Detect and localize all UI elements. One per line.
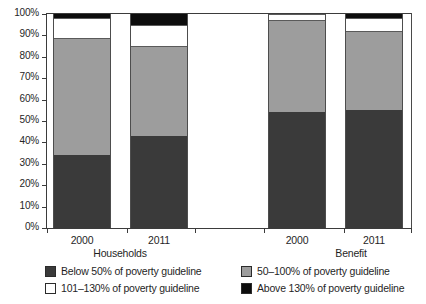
legend-swatch-gray-icon: [241, 266, 252, 277]
y-axis-tick-label: 70%: [20, 71, 39, 82]
y-axis-tick-label: 20%: [20, 178, 39, 189]
stacked-bar-households-2011[interactable]: [130, 14, 188, 228]
y-axis-tick-label: 30%: [20, 157, 39, 168]
legend-item-101-130[interactable]: 101–130% of poverty guideline: [45, 282, 241, 294]
x-axis-group-label-households: Households: [65, 247, 175, 259]
y-axis-tick-label: 40%: [20, 135, 39, 146]
legend-swatch-white-icon: [45, 283, 56, 294]
x-axis-label-benefit-2000: 2000: [267, 234, 327, 246]
legend-row: 101–130% of poverty guideline Above 130%…: [45, 282, 405, 299]
legend-label: 50–100% of poverty guideline: [257, 265, 390, 277]
segment-50-100: [346, 31, 402, 110]
segment-below-50: [346, 110, 402, 228]
x-axis-group-label-benefit: Benefit: [296, 247, 406, 259]
y-axis-tick-label: 0%: [25, 221, 39, 232]
segment-101-130: [346, 18, 402, 31]
segment-50-100: [131, 46, 187, 136]
segment-101-130: [54, 18, 110, 37]
stacked-bar-benefit-2011[interactable]: [345, 14, 403, 228]
y-axis-tick-label: 10%: [20, 200, 39, 211]
x-axis-tick-mark: [47, 228, 48, 233]
stacked-bar-benefit-2000[interactable]: [268, 14, 326, 228]
x-axis-label-households-2000: 2000: [52, 234, 112, 246]
chart-page: 100% 90% 80% 70% 60% 50% 40% 30%: [0, 0, 426, 304]
legend-row: Below 50% of poverty guideline 50–100% o…: [45, 265, 405, 282]
plot-area: [47, 14, 412, 228]
segment-50-100: [269, 20, 325, 112]
x-axis-tick-mark: [264, 228, 265, 233]
x-axis-tick-mark: [344, 228, 345, 233]
stacked-bar-households-2000[interactable]: [53, 14, 111, 228]
y-axis-tick-label: 100%: [14, 7, 39, 18]
segment-below-50: [269, 112, 325, 228]
legend-label: Below 50% of poverty guideline: [61, 265, 202, 277]
legend-label: Above 130% of poverty guideline: [257, 282, 404, 294]
segment-above-130: [131, 14, 187, 25]
legend-label: 101–130% of poverty guideline: [61, 282, 199, 294]
legend-swatch-dark-icon: [45, 266, 56, 277]
legend-item-below-50[interactable]: Below 50% of poverty guideline: [45, 265, 241, 277]
x-axis-label-households-2011: 2011: [129, 234, 189, 246]
segment-below-50: [131, 136, 187, 228]
chart-legend: Below 50% of poverty guideline 50–100% o…: [45, 265, 405, 299]
y-axis-tick-label: 90%: [20, 28, 39, 39]
legend-item-50-100[interactable]: 50–100% of poverty guideline: [241, 265, 390, 277]
legend-item-above-130[interactable]: Above 130% of poverty guideline: [241, 282, 404, 294]
y-axis-tick-label: 60%: [20, 93, 39, 104]
segment-50-100: [54, 38, 110, 156]
y-axis-tick-label: 50%: [20, 114, 39, 125]
plot-frame-bottom: [46, 228, 412, 229]
y-axis-tick-label: 80%: [20, 50, 39, 61]
x-axis-tick-mark: [127, 228, 128, 233]
segment-101-130: [131, 25, 187, 46]
legend-swatch-black-icon: [241, 283, 252, 294]
x-axis-label-benefit-2011: 2011: [344, 234, 404, 246]
x-axis-tick-mark: [411, 228, 412, 233]
segment-below-50: [54, 155, 110, 228]
x-axis-tick-mark: [195, 228, 196, 233]
